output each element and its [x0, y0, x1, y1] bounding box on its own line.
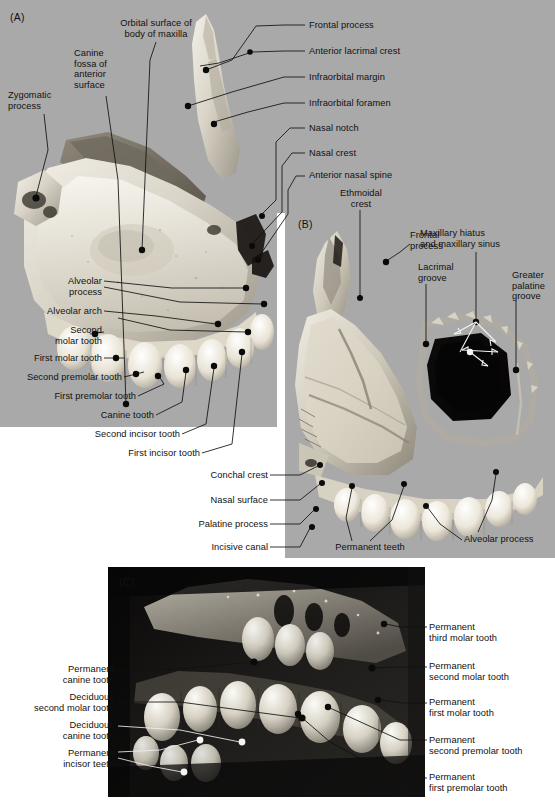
label-nasal-crest: Nasal crest [309, 148, 356, 159]
label-permanent-second-molar-tooth: Permanent second molar tooth [429, 661, 509, 682]
label-permanent-incisor-teeth: Permanent incisor teeth [32, 748, 114, 769]
label-first-premolar-tooth: First premolar tooth [18, 391, 136, 402]
label-second-incisor-tooth: Second incisor tooth [56, 429, 180, 440]
panel-b-letter: (B) [298, 218, 313, 230]
label-deciduous-canine-tooth: Deciduous canine tooth [32, 720, 114, 741]
label-zygomatic-process: Zygomatic process [8, 90, 78, 111]
label-permanent-third-molar-tooth: Permanent third molar tooth [429, 622, 497, 643]
label-ethmoidal-crest: Ethmoidal crest [330, 188, 392, 209]
label-permanent-second-premolar-tooth: Permanent second premolar tooth [429, 735, 523, 756]
panel-c-letter: (C) [119, 576, 134, 588]
label-alveolar-arch: Alveolar arch [18, 306, 102, 317]
label-alveolar-process-a: Alveolar process [40, 276, 102, 297]
label-infraorbital-foramen: Infraorbital foramen [309, 98, 391, 109]
label-orbital-surface-of-body-of-maxilla: Orbital surface of body of maxilla [96, 18, 216, 39]
label-conchal-crest: Conchal crest [150, 470, 268, 481]
label-canine-fossa-of-anterior-surface: Canine fossa of anterior surface [74, 48, 136, 90]
label-frontal-process-b: Frontal process [410, 230, 443, 251]
label-first-molar-tooth: First molar tooth [4, 353, 102, 364]
label-nasal-surface: Nasal surface [150, 495, 268, 506]
label-incisive-canal: Incisive canal [150, 542, 268, 553]
label-lacrimal-groove: Lacrimal groove [418, 262, 454, 283]
label-deciduous-second-molar-tooth: Deciduous second molar tooth [10, 692, 114, 713]
anatomical-figure-maxilla: (A) Orbital surface of body of maxilla C… [0, 0, 555, 807]
label-permanent-first-premolar-tooth: Permanent first premolar tooth [429, 772, 508, 793]
panel-a-letter: (A) [10, 11, 25, 23]
label-palatine-process: Palatine process [150, 519, 268, 530]
label-permanent-first-molar-tooth: Permanent first molar tooth [429, 697, 494, 718]
label-anterior-nasal-spine: Anterior nasal spine [309, 170, 392, 181]
label-greater-palatine-groove: Greater palatine groove [512, 270, 554, 302]
label-canine-tooth: Canine tooth [46, 410, 154, 421]
panel-c-child-maxilla-photograph [108, 567, 425, 797]
label-permanent-canine-tooth: Permanent canine tooth [32, 664, 114, 685]
label-nasal-notch: Nasal notch [309, 123, 359, 134]
panel-a-maxilla-photograph [0, 0, 290, 430]
label-second-premolar-tooth: Second premolar tooth [0, 372, 122, 383]
label-frontal-process: Frontal process [309, 20, 374, 31]
label-anterior-lacrimal-crest: Anterior lacrimal crest [309, 46, 400, 57]
label-alveolar-process-b: Alveolar process [464, 534, 534, 545]
label-first-incisor-tooth: First incisor tooth [88, 448, 200, 459]
label-infraorbital-margin: Infraorbital margin [309, 72, 385, 83]
label-second-molar-tooth: Second molar tooth [28, 325, 102, 346]
label-permanent-teeth: Permanent teeth [330, 542, 410, 553]
